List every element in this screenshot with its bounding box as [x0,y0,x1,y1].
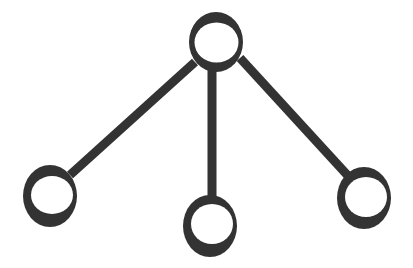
node-hole [31,176,73,214]
node-hole [191,204,233,244]
edge-root-right [240,58,350,178]
node-root [189,12,243,72]
node-hole [345,177,387,217]
edge-root-left [70,62,195,175]
node-right [337,167,391,229]
edges [70,58,350,197]
node-hole [195,23,239,63]
node-middle [183,195,237,257]
nodes [23,12,391,257]
tree-diagram [0,0,413,268]
node-left [23,165,77,227]
